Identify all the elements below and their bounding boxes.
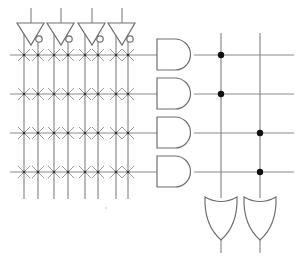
fuse-node-icon	[97, 54, 100, 57]
fuse-node-icon	[84, 132, 87, 135]
fuse-node-icon	[37, 93, 40, 96]
fuse-node-icon	[97, 93, 100, 96]
fuse-node-icon	[115, 171, 118, 174]
fuse-node-icon	[115, 132, 118, 135]
inversion-bubble-icon	[36, 36, 42, 42]
fuse-node-icon	[67, 171, 70, 174]
fuse-node-icon	[97, 132, 100, 135]
fuse-node-icon	[115, 54, 118, 57]
fuse-node-icon	[127, 93, 130, 96]
fuse-node-icon	[53, 132, 56, 135]
fuse-node-icon	[127, 54, 130, 57]
or-gates	[205, 197, 276, 240]
connection-dot-icon	[257, 130, 263, 136]
and-gate-icon	[157, 39, 191, 70]
fuse-node-icon	[23, 93, 26, 96]
inversion-bubble-icon	[127, 36, 133, 42]
fuse-node-icon	[97, 171, 100, 174]
fuse-node-icon	[23, 54, 26, 57]
fuse-node-icon	[23, 132, 26, 135]
fuse-node-icon	[84, 171, 87, 174]
speck-artifact	[105, 207, 106, 208]
fuse-node-icon	[84, 54, 87, 57]
fuse-node-icon	[37, 54, 40, 57]
inversion-bubble-icon	[97, 36, 103, 42]
fuse-node-icon	[53, 171, 56, 174]
input-buffers	[17, 8, 135, 45]
pla-schematic	[0, 0, 305, 258]
inversion-bubble-icon	[66, 36, 72, 42]
and-gate-icon	[157, 117, 190, 148]
fuse-node-icon	[67, 54, 70, 57]
fuse-node-icon	[53, 93, 56, 96]
fuse-node-icon	[127, 171, 130, 174]
fuse-node-icon	[67, 132, 70, 135]
connection-dot-icon	[257, 169, 263, 175]
fuse-node-icon	[53, 54, 56, 57]
connection-dot-icon	[218, 91, 224, 97]
connection-dot-icon	[218, 52, 224, 58]
fuse-node-icon	[127, 132, 130, 135]
fuse-node-icon	[84, 93, 87, 96]
or-gate-icon	[244, 197, 276, 240]
fuse-node-icon	[115, 93, 118, 96]
or-gate-icon	[205, 197, 237, 240]
fuse-node-icon	[37, 171, 40, 174]
fuse-node-icon	[23, 171, 26, 174]
fuse-node-icon	[37, 132, 40, 135]
and-gates	[157, 39, 191, 187]
and-gate-icon	[157, 78, 191, 109]
and-gate-icon	[157, 156, 191, 187]
pla-diagram	[0, 0, 305, 258]
fuse-node-icon	[67, 93, 70, 96]
